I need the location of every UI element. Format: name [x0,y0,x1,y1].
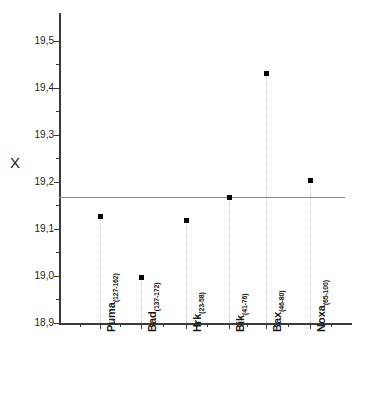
y-tick-label: 19,2 [20,177,54,187]
y-tick-label: 19,1 [20,224,54,234]
y-tick-label-wrap: 19,1 [14,224,54,234]
x-tick-major [266,324,267,329]
x-category-subscript: (127-162) [112,273,119,302]
drop-line [141,277,143,323]
x-category-label: Noxa(65-100) [315,280,329,332]
y-tick-label: 19,5 [20,36,54,46]
y-tick-major [54,182,59,183]
y-tick-label-wrap: 19,3 [14,130,54,140]
y-tick-major [54,229,59,230]
x-category-name: Puma [105,302,117,332]
x-tick-minor [80,324,81,327]
y-tick-label-wrap: 19,2 [14,177,54,187]
x-category-subscript: (23-58) [198,292,205,313]
data-point-marker[interactable] [308,178,313,183]
y-axis-line [59,13,61,324]
x-category-subscript: (65-100) [322,280,329,305]
y-tick-minor [56,64,59,65]
x-category-subscript: (137-172) [153,283,160,312]
x-category-label: Puma(127-162) [105,273,119,332]
y-tick-label-wrap: 19,0 [14,271,54,281]
data-point-marker[interactable] [227,195,232,200]
y-tick-minor [56,158,59,159]
y-tick-minor [56,299,59,300]
x-category-name: Hrk [191,314,203,332]
data-point-marker[interactable] [264,71,269,76]
x-axis-line [59,323,352,325]
y-tick-label-wrap: 19,4 [14,83,54,93]
x-tick-minor [163,324,164,327]
x-tick-major [229,324,230,329]
x-tick-minor [207,324,208,327]
drop-line [310,180,312,323]
x-category-label: Hrk(23-58) [191,292,205,332]
x-category-name: Bad [146,311,158,332]
y-tick-label: 19,3 [20,130,54,140]
drop-line [100,216,102,323]
data-point-marker[interactable] [98,214,103,219]
reference-line [59,197,345,198]
y-tick-minor [56,205,59,206]
x-tick-major [310,324,311,329]
x-tick-minor [120,324,121,327]
chart-container: X 18,919,019,119,219,319,419,5 Puma(127-… [0,0,369,406]
y-tick-major [54,88,59,89]
y-tick-label: 19,4 [20,83,54,93]
y-tick-major [54,41,59,42]
y-tick-major [54,135,59,136]
x-category-name: Noxa [315,305,327,332]
x-category-name: Bik [234,315,246,332]
x-category-subscript: (46-80) [278,291,285,312]
drop-line [266,73,268,323]
y-tick-label-wrap: 19,5 [14,36,54,46]
data-point-marker[interactable] [139,275,144,280]
x-category-label: Bik(41-76) [234,294,248,332]
x-tick-minor [331,324,332,327]
y-tick-label: 18,9 [20,318,54,328]
data-point-marker[interactable] [184,218,189,223]
y-tick-major [54,323,59,324]
x-tick-major [186,324,187,329]
x-tick-major [141,324,142,329]
y-tick-major [54,276,59,277]
x-category-label: Bad(137-172) [146,283,160,332]
drop-line [229,197,231,323]
y-axis-title: X [10,154,20,171]
y-tick-minor [56,111,59,112]
x-category-subscript: (41-76) [241,294,248,315]
y-tick-label-wrap: 18,9 [14,318,54,328]
x-tick-major [100,324,101,329]
drop-line [186,220,188,323]
x-category-name: Bax [271,312,283,332]
x-category-label: Bax(46-80) [271,291,285,332]
y-tick-label: 19,0 [20,271,54,281]
x-tick-minor [288,324,289,327]
y-tick-minor [56,252,59,253]
